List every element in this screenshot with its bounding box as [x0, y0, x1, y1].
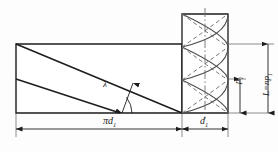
cylinder-projection — [182, 8, 228, 119]
helix-development-diagram: πd1 d1 λ p1 L=np1 — [0, 0, 278, 152]
label-minor-diameter: d1 — [200, 116, 208, 128]
label-lead: L=np1 — [262, 73, 274, 96]
label-pitch-circumference: πd1 — [103, 116, 116, 128]
label-pitch: p1 — [233, 77, 245, 84]
label-lead-angle: λ — [103, 80, 107, 89]
